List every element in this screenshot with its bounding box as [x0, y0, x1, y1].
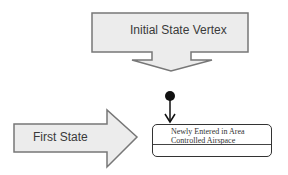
state-name: Newly Entered in Area Controlled Airspac… [171, 127, 245, 145]
state-name-line-1: Newly Entered in Area [171, 127, 245, 136]
diagram-canvas: Initial State Vertex First State Newly E… [0, 0, 288, 175]
state-newly-entered: Newly Entered in Area Controlled Airspac… [152, 124, 272, 157]
initial-pseudostate-dot [165, 91, 175, 101]
first-state-label: First State [33, 131, 88, 143]
state-compartment-divider [153, 144, 271, 145]
initial-state-vertex-callout-arrow [92, 13, 248, 71]
initial-state-vertex-label: Initial State Vertex [130, 24, 227, 36]
